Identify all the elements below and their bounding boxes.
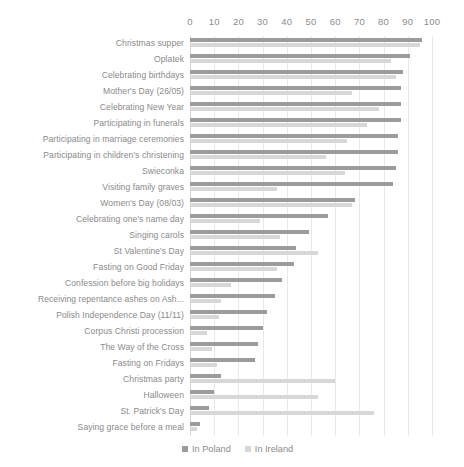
bar-rows [190,36,432,436]
bar-in-poland [190,294,275,298]
x-tick-label-70: 70 [354,16,365,27]
bar-in-poland [190,70,403,74]
bar-in-poland [190,54,410,58]
bar-row [190,228,432,244]
legend-label: In Poland [192,444,231,454]
x-tick-label-0: 0 [187,16,192,27]
category-label: Celebrating New Year [0,102,184,112]
legend-swatch-icon [245,446,251,452]
bar-in-poland [190,134,398,138]
category-label: Visiting family graves [0,182,184,192]
bar-in-poland [190,150,398,154]
bar-in-ireland [190,411,374,415]
bar-in-ireland [190,283,231,287]
x-tick-label-80: 80 [378,16,389,27]
bar-in-ireland [190,43,420,47]
bar-in-ireland [190,219,260,223]
category-label: Christmas supper [0,38,184,48]
bar-in-ireland [190,59,391,63]
x-tick-label-10: 10 [209,16,220,27]
bar-row [190,420,432,436]
category-label: Women's Day (08/03) [0,198,184,208]
bar-row [190,84,432,100]
bar-in-ireland [190,331,207,335]
category-label: Oplatek [0,54,184,64]
bar-in-poland [190,102,401,106]
bar-in-poland [190,246,296,250]
bar-row [190,324,432,340]
bar-in-poland [190,342,258,346]
bar-in-ireland [190,139,347,143]
bar-row [190,132,432,148]
bar-in-poland [190,214,328,218]
x-tick-label-60: 60 [330,16,341,27]
x-axis-tick-labels: 0102030405060708090100 [190,16,432,32]
bar-in-ireland [190,155,326,159]
category-label: Swieconka [0,166,184,176]
bar-in-ireland [190,379,335,383]
bar-in-ireland [190,91,352,95]
bar-row [190,100,432,116]
bar-in-ireland [190,123,367,127]
x-tick-label-30: 30 [257,16,268,27]
category-label: Christmas party [0,374,184,384]
bar-row [190,292,432,308]
bar-in-poland [190,278,282,282]
bar-row [190,388,432,404]
bar-chart: 0102030405060708090100 Christmas supperO… [0,0,464,467]
category-label: Halloween [0,390,184,400]
plot-area [190,36,432,436]
bar-row [190,148,432,164]
bar-in-ireland [190,427,197,431]
legend-item: In Poland [182,444,231,454]
bar-in-ireland [190,251,318,255]
bar-in-ireland [190,299,221,303]
bar-in-ireland [190,267,277,271]
bar-row [190,404,432,420]
bar-in-poland [190,86,401,90]
x-tick-label-40: 40 [281,16,292,27]
x-tick-label-100: 100 [424,16,440,27]
bar-in-poland [190,182,393,186]
category-axis-labels: Christmas supperOplatekCelebrating birth… [0,36,184,436]
category-label: Receiving repentance ashes on Ash... [0,294,184,304]
gridline-100 [432,36,433,436]
bar-in-poland [190,310,267,314]
bar-row [190,68,432,84]
bar-in-ireland [190,315,219,319]
bar-in-poland [190,118,401,122]
bar-row [190,116,432,132]
legend-label: In Ireland [255,444,293,454]
category-label: Corpus Christi procession [0,326,184,336]
category-label: Polish Independence Day (11/11) [0,310,184,320]
legend-swatch-icon [182,446,188,452]
x-tick-label-90: 90 [402,16,413,27]
category-label: St. Patrick's Day [0,406,184,416]
bar-row [190,308,432,324]
bar-in-poland [190,198,355,202]
bar-row [190,244,432,260]
x-tick-label-50: 50 [306,16,317,27]
bar-row [190,340,432,356]
bar-row [190,372,432,388]
category-label: Saying grace before a meal [0,422,184,432]
bar-in-ireland [190,203,352,207]
bar-in-poland [190,358,255,362]
category-label: Celebrating birthdays [0,70,184,80]
category-label: Fasting on Good Friday [0,262,184,272]
bar-in-ireland [190,395,318,399]
chart-legend: In PolandIn Ireland [182,444,293,454]
bar-in-poland [190,390,214,394]
bar-row [190,52,432,68]
category-label: Confession before big holidays [0,278,184,288]
bar-in-ireland [190,75,396,79]
category-label: Participating in children's christening [0,150,184,160]
bar-in-poland [190,406,209,410]
bar-row [190,36,432,52]
category-label: Participating in funerals [0,118,184,128]
bar-in-ireland [190,187,277,191]
bar-in-ireland [190,107,379,111]
bar-in-poland [190,262,294,266]
bar-row [190,164,432,180]
bar-in-ireland [190,171,345,175]
